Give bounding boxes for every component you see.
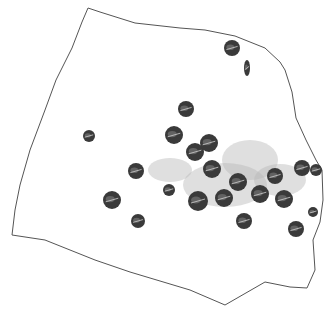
seed xyxy=(288,221,304,237)
seed xyxy=(251,185,269,203)
illustration xyxy=(0,0,331,312)
seed xyxy=(128,163,144,179)
seed xyxy=(267,168,283,184)
stain-patch xyxy=(148,158,192,182)
seed xyxy=(131,214,145,228)
seed xyxy=(215,189,233,207)
seed xyxy=(229,173,247,191)
seed xyxy=(294,160,310,176)
seed-fragment-drawing xyxy=(0,0,331,312)
seed xyxy=(236,213,252,229)
seed xyxy=(165,126,183,144)
seed xyxy=(203,160,221,178)
seed xyxy=(310,164,322,176)
seed xyxy=(308,207,318,217)
seed xyxy=(103,191,121,209)
seed-layer xyxy=(83,40,322,237)
seed xyxy=(224,40,240,56)
seed xyxy=(200,134,218,152)
seed xyxy=(83,130,95,142)
seed xyxy=(275,190,293,208)
seed xyxy=(163,184,175,196)
seed xyxy=(244,60,250,76)
seed xyxy=(188,191,208,211)
seed xyxy=(178,101,194,117)
